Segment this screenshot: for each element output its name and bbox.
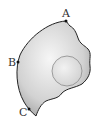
point-b-dot	[17, 61, 20, 64]
lamina-diagram: A B C	[0, 0, 101, 134]
point-c-dot	[28, 108, 31, 111]
label-a: A	[61, 7, 71, 20]
hole-circle	[52, 56, 82, 86]
label-b: B	[8, 56, 16, 69]
label-c: C	[19, 106, 27, 119]
